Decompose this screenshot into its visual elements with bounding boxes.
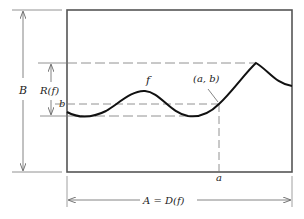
- a-label: a: [216, 172, 222, 183]
- function-label: f: [145, 74, 152, 87]
- point-leader: [208, 89, 218, 102]
- point-label: (a, b): [193, 73, 220, 84]
- function-curve: [67, 63, 292, 116]
- codomain-box: [67, 10, 292, 172]
- range-label: R(f): [39, 85, 59, 96]
- b-label: b: [59, 98, 65, 109]
- codomain-label: B: [18, 84, 27, 97]
- domain-label: A = D(f): [142, 195, 185, 206]
- function-diagram: B R(f) b a f (a, b) A = D(f): [0, 0, 304, 219]
